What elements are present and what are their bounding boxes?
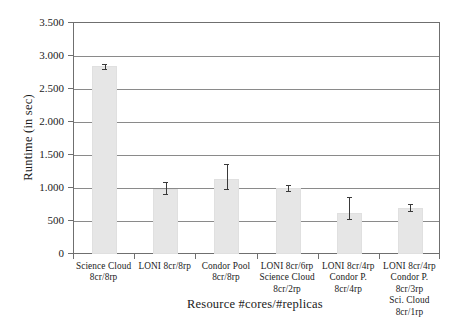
plot-area <box>73 22 440 254</box>
y-tick-label: 2.000 <box>0 115 64 127</box>
error-bar-cap-upper <box>286 185 291 186</box>
y-tick-mark <box>68 187 73 188</box>
y-tick-mark <box>68 154 73 155</box>
y-tick-mark <box>68 121 73 122</box>
error-bar-cap-lower <box>408 211 413 212</box>
error-bar-cap-lower <box>286 191 291 192</box>
gridline <box>74 122 439 123</box>
x-tick-mark <box>134 254 135 259</box>
error-bar <box>410 204 411 212</box>
error-bar-cap-lower <box>224 189 229 190</box>
error-bar-cap-upper <box>347 197 352 198</box>
y-tick-mark <box>68 55 73 56</box>
x-tick-mark <box>257 254 258 259</box>
error-bar <box>227 164 228 189</box>
gridline <box>74 188 439 189</box>
error-bar-cap-upper <box>102 64 107 65</box>
y-tick-mark <box>68 88 73 89</box>
y-tick-label: 1.000 <box>0 181 64 193</box>
y-tick-label: 3.000 <box>0 49 64 61</box>
y-tick-label: 2.500 <box>0 82 64 94</box>
error-bar-cap-upper <box>408 204 413 205</box>
bar <box>214 179 239 254</box>
error-bar <box>349 197 350 219</box>
x-category-label: LONI 8cr/6rp Science Cloud 8cr/2rp <box>257 261 318 295</box>
x-category-label: Science Cloud 8cr/8rp <box>73 261 134 284</box>
bar-chart: Runtime (in sec) 05001.0001.5002.0002.50… <box>0 0 466 319</box>
x-tick-mark <box>73 254 74 259</box>
bar <box>92 66 117 254</box>
bar <box>276 188 301 254</box>
error-bar <box>166 182 167 195</box>
x-category-label: LONI 8cr/8rp <box>134 261 195 272</box>
y-tick-mark <box>68 22 73 23</box>
y-tick-label: 3.500 <box>0 16 64 28</box>
x-tick-mark <box>439 254 440 259</box>
x-tick-mark <box>318 254 319 259</box>
gridline <box>74 89 439 90</box>
error-bar-cap-upper <box>163 182 168 183</box>
x-tick-mark <box>195 254 196 259</box>
x-category-label: LONI 8cr/4rp Condor P. 8cr/4rp <box>318 261 379 295</box>
y-axis-title: Runtime (in sec) <box>21 48 36 228</box>
gridline <box>74 221 439 222</box>
y-tick-label: 1.500 <box>0 148 64 160</box>
error-bar-cap-upper <box>224 164 229 165</box>
y-tick-label: 500 <box>0 214 64 226</box>
y-tick-label: 0 <box>0 247 64 259</box>
error-bar-cap-lower <box>102 69 107 70</box>
x-category-label: Condor Pool 8cr/8rp <box>195 261 256 284</box>
error-bar-cap-lower <box>163 194 168 195</box>
bar <box>153 189 178 254</box>
y-tick-mark <box>68 220 73 221</box>
x-axis-title: Resource #cores/#replicas <box>70 297 440 312</box>
gridline <box>74 56 439 57</box>
x-tick-mark <box>379 254 380 259</box>
gridline <box>74 155 439 156</box>
bar <box>398 208 423 254</box>
error-bar-cap-lower <box>347 219 352 220</box>
